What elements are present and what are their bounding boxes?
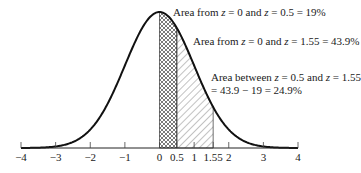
x-tick-label: 0.5 [170,151,184,163]
annotation-area-0-to-0.5: Area from z = 0 and z = 0.5 = 19% [173,6,326,19]
annotation-area-0.5-to-1.55: Area between z = 0.5 and z = 1.55 = 43.9… [211,71,361,97]
x-tick-label: −3 [50,151,62,163]
x-tick-label: 2 [226,151,232,163]
x-tick-label: −4 [15,151,27,163]
x-tick-label: 0 [157,151,163,163]
x-tick-label: 1.55 [204,151,224,163]
x-tick-label: −1 [119,151,131,163]
x-tick-label: 4 [295,151,301,163]
shaded-regions [160,12,214,148]
x-tick-label: −2 [84,151,96,163]
x-tick-label: 1 [191,151,197,163]
shaded-region-0 [160,12,177,148]
x-tick-label: 3 [261,151,267,163]
annotation-area-0-to-1.55: Area from z = 0 and z = 1.55 = 43.9% [193,35,360,48]
